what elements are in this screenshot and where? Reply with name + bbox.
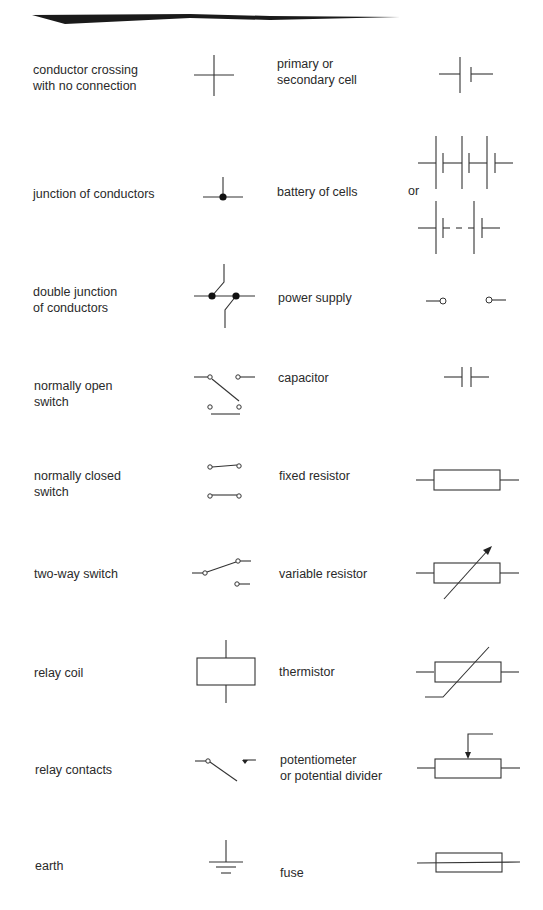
double-junction-icon xyxy=(194,264,255,328)
earth-icon xyxy=(209,840,243,873)
two-way-switch-icon xyxy=(192,559,251,586)
power-supply-icon xyxy=(426,297,506,304)
normally-closed-switch-icon xyxy=(208,464,241,498)
symbols-canvas xyxy=(0,0,543,910)
fixed-resistor-icon xyxy=(416,470,519,490)
normally-open-switch-icon xyxy=(194,375,255,414)
fuse-icon xyxy=(417,853,520,872)
conductor-crossing-icon xyxy=(194,55,234,96)
battery-icon xyxy=(418,136,513,189)
thermistor-icon xyxy=(416,647,519,697)
variable-resistor-icon xyxy=(416,546,519,599)
battery-dashed-icon xyxy=(418,201,500,254)
potentiometer-icon xyxy=(417,734,520,778)
cell-icon xyxy=(439,57,493,93)
junction-icon xyxy=(203,177,243,201)
relay-contacts-icon xyxy=(195,759,256,781)
relay-coil-icon xyxy=(197,640,255,703)
capacitor-icon xyxy=(444,367,489,387)
